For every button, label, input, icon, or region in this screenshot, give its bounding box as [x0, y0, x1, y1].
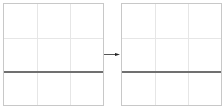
grid-line — [4, 38, 103, 39]
horizontal-marker-line — [4, 71, 103, 73]
grid-line — [122, 38, 221, 39]
right-panel — [121, 3, 222, 106]
grid-line — [70, 4, 71, 105]
grid-line — [188, 4, 189, 105]
arrow-right-icon — [104, 53, 120, 56]
grid-line — [155, 4, 156, 105]
left-panel — [3, 3, 104, 106]
grid-line — [37, 4, 38, 105]
horizontal-marker-line — [122, 71, 221, 73]
